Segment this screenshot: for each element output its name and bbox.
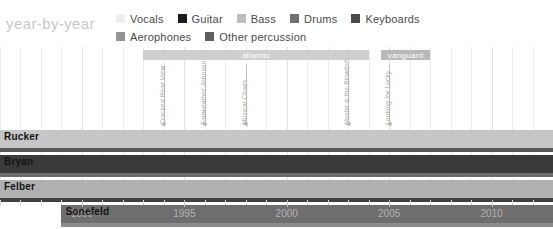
axis-tick — [492, 200, 493, 207]
legend-swatch-icon — [178, 14, 187, 23]
axis-tick-label: 2010 — [480, 208, 502, 219]
axis-tick — [287, 200, 288, 207]
legend-item-other-percussion[interactable]: Other percussion — [205, 31, 306, 43]
axis-tick-label: 2005 — [378, 208, 400, 219]
legend-label: Aerophones — [130, 31, 191, 43]
axis-tick — [0, 200, 1, 205]
legend-label: Drums — [304, 13, 337, 25]
member-rows: RuckerBryanFelberSonefeld — [0, 47, 553, 207]
legend-item-keyboards[interactable]: Keyboards — [351, 13, 419, 25]
axis-tick — [164, 200, 165, 205]
axis-tick-label: 1995 — [173, 208, 195, 219]
axis-tick — [225, 200, 226, 205]
axis-tick — [266, 200, 267, 205]
legend-item-vocals[interactable]: Vocals — [116, 13, 164, 25]
axis-tick — [102, 200, 103, 205]
legend-label: Other percussion — [219, 31, 306, 43]
member-name: Felber — [4, 181, 35, 192]
legend-label: Bass — [251, 13, 276, 25]
axis-tick — [389, 200, 390, 207]
axis-tick-label: 2000 — [276, 208, 298, 219]
legend-item-guitar[interactable]: Guitar — [178, 13, 223, 25]
member-bar — [0, 180, 553, 198]
member-bar-secondary — [0, 173, 553, 177]
member-row[interactable]: Rucker — [0, 130, 553, 154]
legend-swatch-icon — [290, 14, 299, 23]
legend-item-aerophones[interactable]: Aerophones — [116, 31, 191, 43]
axis-tick — [246, 200, 247, 205]
axis-tick — [61, 200, 62, 205]
legend-item-drums[interactable]: Drums — [290, 13, 337, 25]
legend-swatch-icon — [205, 32, 214, 41]
axis-tick — [471, 200, 472, 205]
legend: VocalsGuitarBassDrumsKeyboards Aerophone… — [116, 11, 546, 47]
member-name: Sonefeld — [65, 206, 109, 217]
legend-swatch-icon — [237, 14, 246, 23]
axis-tick — [20, 200, 21, 205]
legend-label: Vocals — [130, 13, 164, 25]
legend-label: Keyboards — [365, 13, 419, 25]
member-bar — [0, 130, 553, 148]
axis-tick — [512, 200, 513, 205]
legend-row: AerophonesOther percussion — [116, 29, 546, 44]
axis-tick — [184, 200, 185, 207]
member-name: Rucker — [4, 131, 39, 142]
axis-tick — [143, 200, 144, 205]
axis-tick — [369, 200, 370, 205]
legend-row: VocalsGuitarBassDrumsKeyboards — [116, 11, 546, 26]
member-bar-secondary — [0, 148, 553, 152]
axis-tick — [205, 200, 206, 205]
plot-area: atlanticvanguard Cracked Rear ViewFairwe… — [0, 47, 553, 207]
legend-label: Guitar — [192, 13, 223, 25]
axis-tick — [410, 200, 411, 205]
page-title: year-by-year — [6, 15, 95, 32]
legend-swatch-icon — [116, 32, 125, 41]
legend-item-bass[interactable]: Bass — [237, 13, 276, 25]
axis-tick — [123, 200, 124, 205]
member-bar — [0, 155, 553, 173]
legend-swatch-icon — [351, 14, 360, 23]
axis-tick — [348, 200, 349, 205]
year-by-year-chart: year-by-year VocalsGuitarBassDrumsKeyboa… — [0, 0, 553, 229]
axis-tick — [430, 200, 431, 205]
member-row[interactable]: Bryan — [0, 155, 553, 179]
axis-tick — [328, 200, 329, 205]
legend-swatch-icon — [116, 14, 125, 23]
axis-tick — [41, 200, 42, 205]
member-name: Bryan — [4, 156, 33, 167]
axis-tick — [533, 200, 534, 205]
axis-tick — [451, 200, 452, 205]
axis-tick — [307, 200, 308, 205]
